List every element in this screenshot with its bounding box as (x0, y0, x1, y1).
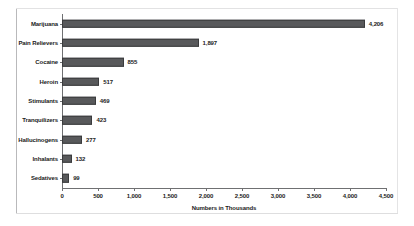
category-label: Stimulants (28, 98, 58, 104)
bar-row: Hallucinogens277 (62, 130, 386, 149)
x-axis-tick (62, 188, 63, 191)
category-label: Sedatives (31, 175, 58, 181)
bar (62, 39, 199, 48)
category-label: Heroin (40, 79, 58, 85)
bar-row: Inhalants132 (62, 149, 386, 168)
bar (62, 155, 72, 164)
bar (62, 135, 82, 144)
bar (62, 19, 365, 28)
x-axis-title: Numbers in Thousands (62, 205, 386, 211)
x-axis-tick (242, 188, 243, 191)
bar-value-label: 517 (103, 79, 113, 85)
x-axis-tick (278, 188, 279, 191)
bar (62, 116, 92, 125)
x-axis-tick-label: 4,000 (343, 193, 358, 199)
bar (62, 97, 96, 106)
category-label: Tranquilizers (22, 117, 58, 123)
figure-frame-top-border (16, 8, 398, 9)
bar-row: Stimulants469 (62, 91, 386, 110)
x-axis-tick-label: 2,500 (235, 193, 250, 199)
bar-value-label: 4,206 (369, 21, 384, 27)
x-axis-tick-label: 4,500 (379, 193, 394, 199)
x-axis-line (62, 188, 386, 189)
bar-value-label: 132 (76, 156, 86, 162)
figure-frame-bottom-border (16, 213, 398, 214)
x-axis-tick-label: 3,000 (271, 193, 286, 199)
bar-chart-figure: Marijuana4,206Pain Relievers1,897Cocaine… (0, 0, 414, 226)
category-label: Inhalants (33, 156, 58, 162)
x-axis-tick (350, 188, 351, 191)
x-axis-tick-label: 500 (93, 193, 103, 199)
x-axis-tick (314, 188, 315, 191)
bar-value-label: 99 (73, 175, 79, 181)
figure-frame-right-border (397, 8, 398, 214)
x-axis-tick-label: 1,000 (127, 193, 142, 199)
x-axis-tick-label: 0 (60, 193, 63, 199)
x-axis-tick (98, 188, 99, 191)
bar-value-label: 277 (86, 137, 96, 143)
x-axis-tick-label: 1,500 (163, 193, 178, 199)
bar-row: Cocaine855 (62, 53, 386, 72)
bar (62, 174, 69, 183)
plot-area: Marijuana4,206Pain Relievers1,897Cocaine… (62, 14, 386, 188)
category-label: Pain Relievers (18, 40, 58, 46)
category-label: Marijuana (31, 21, 58, 27)
category-label: Cocaine (35, 59, 58, 65)
bar-row: Marijuana4,206 (62, 14, 386, 33)
x-axis-tick (170, 188, 171, 191)
bar-value-label: 855 (128, 59, 138, 65)
bar-row: Pain Relievers1,897 (62, 33, 386, 52)
bar (62, 77, 99, 86)
bar-value-label: 423 (96, 117, 106, 123)
figure-frame-left-border (16, 8, 17, 214)
bar (62, 58, 124, 67)
bar-row: Sedatives99 (62, 169, 386, 188)
x-axis-tick (134, 188, 135, 191)
bar-value-label: 1,897 (203, 40, 218, 46)
bar-row: Heroin517 (62, 72, 386, 91)
x-axis-tick (206, 188, 207, 191)
x-axis-tick-label: 2,000 (199, 193, 214, 199)
category-label: Hallucinogens (18, 137, 58, 143)
x-axis-tick (386, 188, 387, 191)
bar-row: Tranquilizers423 (62, 111, 386, 130)
x-axis-tick-label: 3,500 (307, 193, 322, 199)
bar-value-label: 469 (100, 98, 110, 104)
